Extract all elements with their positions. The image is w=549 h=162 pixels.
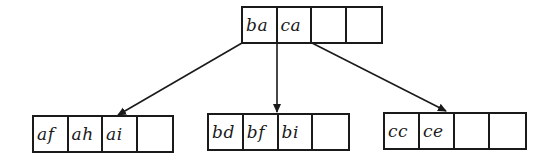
left-child-node: af ah ai [32,115,174,153]
left-child-key-3 [138,117,172,151]
left-child-key-1: ah [69,117,104,151]
right-child-key-3 [490,114,525,148]
root-key-0: ba [243,8,278,42]
right-child-key-0: cc [385,114,420,148]
edge-root-to-left-child [118,43,242,115]
root-node: ba ca [241,6,383,44]
left-child-key-0: af [34,117,69,151]
right-child-node: cc ce [383,112,527,150]
middle-child-node: bd bf bi [207,113,350,151]
right-child-key-1: ce [420,114,455,148]
root-key-1: ca [278,8,313,42]
middle-child-key-2: bi [279,115,314,149]
middle-child-key-0: bd [209,115,244,149]
right-child-key-2 [455,114,490,148]
root-key-3 [347,8,381,42]
middle-child-key-3 [313,115,348,149]
middle-child-key-1: bf [244,115,279,149]
left-child-key-2: ai [103,117,138,151]
edge-root-to-right-child [312,43,446,111]
root-key-2 [312,8,347,42]
